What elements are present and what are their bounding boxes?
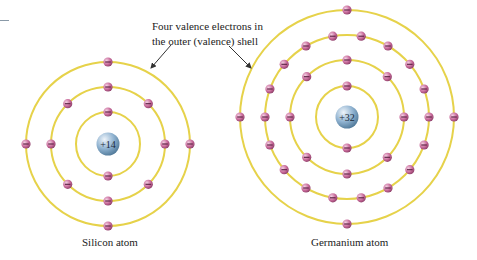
electron-icon bbox=[342, 143, 351, 152]
electron-icon bbox=[420, 84, 429, 93]
electron-icon bbox=[103, 171, 112, 180]
electron-icon bbox=[103, 221, 112, 230]
electron-icon bbox=[144, 180, 153, 189]
electron-icon bbox=[342, 5, 351, 14]
electron-icon bbox=[144, 99, 153, 108]
electron-icon bbox=[328, 193, 337, 202]
electron-icon bbox=[285, 112, 294, 121]
electron-icon bbox=[342, 219, 351, 228]
electron-icon bbox=[103, 57, 112, 66]
germanium-atom: +32 bbox=[235, 5, 458, 228]
electron-icon bbox=[424, 112, 433, 121]
electron-icon bbox=[420, 140, 429, 149]
nucleus-charge-label: +14 bbox=[100, 139, 116, 150]
electron-icon bbox=[383, 72, 392, 81]
electron-icon bbox=[265, 84, 274, 93]
electron-icon bbox=[328, 32, 337, 41]
electron-icon bbox=[46, 139, 55, 148]
electron-icon bbox=[301, 183, 310, 192]
electron-icon bbox=[357, 193, 366, 202]
electron-icon bbox=[63, 99, 72, 108]
nucleus-charge-label: +32 bbox=[339, 112, 355, 123]
electron-icon bbox=[383, 41, 392, 50]
germanium-caption: Germanium atom bbox=[311, 236, 388, 248]
electron-icon bbox=[280, 165, 289, 174]
electron-icon bbox=[185, 139, 194, 148]
electron-icon bbox=[357, 32, 366, 41]
electron-icon bbox=[63, 180, 72, 189]
valence-annotation: Four valence electrons in the outer (val… bbox=[152, 19, 263, 49]
arrow-to-germanium-valence-shell bbox=[229, 46, 251, 68]
electron-icon bbox=[103, 82, 112, 91]
electron-icon bbox=[383, 153, 392, 162]
germanium-nucleus: +32 bbox=[336, 106, 359, 129]
electron-icon bbox=[342, 81, 351, 90]
electron-icon bbox=[280, 60, 289, 69]
electron-icon bbox=[235, 112, 244, 121]
silicon-atom: +14 bbox=[21, 57, 194, 230]
electron-icon bbox=[342, 55, 351, 64]
electron-icon bbox=[21, 139, 30, 148]
electron-icon bbox=[103, 196, 112, 205]
electron-icon bbox=[302, 72, 311, 81]
electron-icon bbox=[160, 139, 169, 148]
electron-icon bbox=[383, 183, 392, 192]
annotation-line-1: Four valence electrons in bbox=[152, 19, 263, 34]
electron-icon bbox=[265, 140, 274, 149]
electron-icon bbox=[342, 169, 351, 178]
electron-icon bbox=[103, 107, 112, 116]
electron-icon bbox=[302, 153, 311, 162]
electron-icon bbox=[301, 41, 310, 50]
annotation-line-2: the outer (valence) shell bbox=[152, 34, 263, 49]
electron-icon bbox=[449, 112, 458, 121]
silicon-nucleus: +14 bbox=[97, 133, 120, 156]
electron-icon bbox=[399, 112, 408, 121]
electron-icon bbox=[405, 60, 414, 69]
electron-icon bbox=[405, 165, 414, 174]
electron-icon bbox=[260, 112, 269, 121]
silicon-caption: Silicon atom bbox=[82, 236, 138, 248]
